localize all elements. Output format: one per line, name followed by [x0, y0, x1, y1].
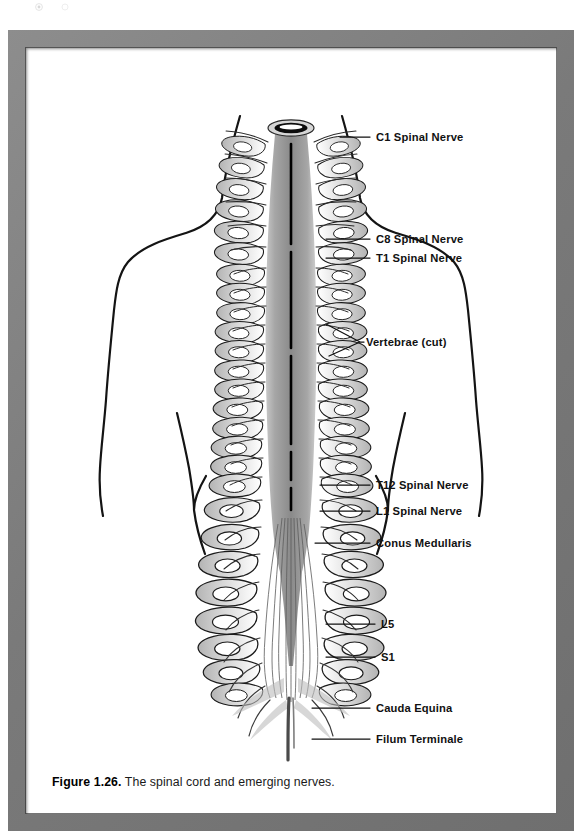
figure-canvas: C1 Spinal Nerve C8 Spinal Nerve T1 Spina…: [26, 48, 556, 813]
label-t12: T12 Spinal Nerve: [376, 479, 469, 491]
label-c8: C8 Spinal Nerve: [376, 233, 463, 245]
cauda-equina: [264, 518, 318, 702]
label-cauda-equina: Cauda Equina: [376, 702, 453, 714]
spinal-cord-illustration: C1 Spinal Nerve C8 Spinal Nerve T1 Spina…: [26, 48, 556, 763]
figure-frame: C1 Spinal Nerve C8 Spinal Nerve T1 Spina…: [8, 30, 574, 831]
label-conus-medullaris: Conus Medullaris: [376, 537, 472, 549]
label-l5: L5: [381, 618, 394, 630]
figure-caption-label: Figure 1.26.: [52, 775, 122, 789]
scan-artifact: [20, 2, 80, 14]
label-c1: C1 Spinal Nerve: [376, 131, 463, 143]
label-t1: T1 Spinal Nerve: [376, 252, 462, 264]
figure-caption: Figure 1.26. The spinal cord and emergin…: [52, 774, 522, 791]
label-l1: L1 Spinal Nerve: [376, 505, 462, 517]
label-text-group: C1 Spinal Nerve C8 Spinal Nerve T1 Spina…: [366, 131, 472, 745]
figure-caption-text: The spinal cord and emerging nerves.: [122, 775, 335, 789]
label-filum-terminale: Filum Terminale: [376, 733, 463, 745]
filum-terminale: [288, 698, 294, 760]
label-s1: S1: [381, 651, 395, 663]
label-vertebrae-cut: Vertebrae (cut): [366, 336, 447, 348]
